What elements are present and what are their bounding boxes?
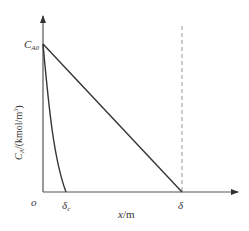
curved-profile-line (43, 44, 66, 192)
x-tick-label-delta-c: δc (62, 199, 71, 213)
linear-profile-line (43, 44, 182, 192)
origin-label: o (31, 196, 37, 208)
concentration-profile-diagram: CA0 o δc δ x/m CA/(kmol/m3) (0, 0, 249, 231)
x-axis-label: x/m (117, 208, 135, 220)
y-axis-label: CA/(kmol/m3) (13, 105, 26, 160)
y-tick-label-ca0: CA0 (24, 38, 40, 52)
x-tick-label-delta: δ (178, 199, 184, 211)
